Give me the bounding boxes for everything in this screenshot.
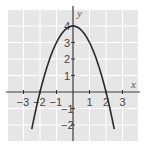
x-tick-label: 1 — [87, 96, 93, 108]
x-axis-label: x — [130, 78, 136, 90]
y-tick-label: 1 — [64, 70, 70, 82]
y-tick-label: 2 — [64, 53, 70, 65]
y-tick-label: −1 — [61, 103, 74, 115]
parabola-chart: −3−2−11234321−1−2 x y — [0, 0, 146, 146]
y-axis-label: y — [76, 7, 82, 19]
y-tick-label: −2 — [61, 119, 74, 131]
x-tick-label: −3 — [17, 96, 30, 108]
y-tick-label: 3 — [64, 37, 70, 49]
x-tick-label: 3 — [120, 96, 126, 108]
